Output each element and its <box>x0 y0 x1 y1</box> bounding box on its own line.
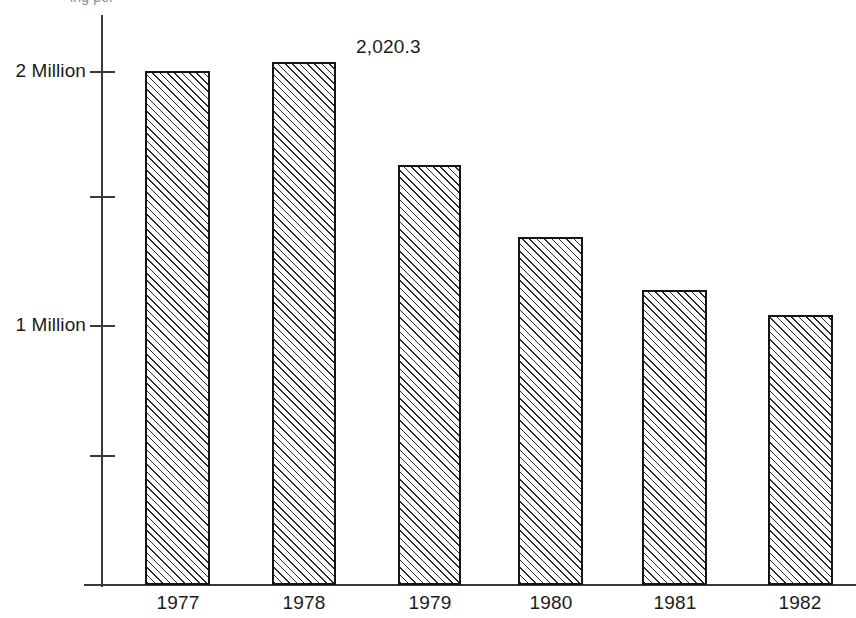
y-axis-label-text: 2 Million <box>15 60 86 82</box>
bar-chart: ing per 2 Million 1 Million 2,020.3 1977… <box>0 0 856 618</box>
y-tick-1000 <box>90 325 115 327</box>
y-tick-500 <box>90 455 115 457</box>
x-axis-label-1978: 1978 <box>259 592 349 614</box>
bar-1980 <box>518 237 583 585</box>
x-axis-label-1981: 1981 <box>630 592 720 614</box>
y-axis-label-1-million: 1 Million <box>0 314 86 336</box>
x-axis-label-1982: 1982 <box>755 592 845 614</box>
y-axis-label-text: 1 Million <box>15 314 86 336</box>
bar-1977 <box>145 71 210 585</box>
x-axis-label-1977: 1977 <box>133 592 223 614</box>
bar-1979 <box>398 165 461 585</box>
bar-1978 <box>272 62 336 585</box>
x-axis-label-1979: 1979 <box>385 592 475 614</box>
y-axis-line <box>101 15 103 587</box>
bar-1982 <box>768 315 833 585</box>
bar-1981 <box>642 290 707 585</box>
clipped-header-text: ing per <box>70 0 114 5</box>
y-axis-label-2-million: 2 Million <box>0 60 86 82</box>
y-tick-1500 <box>90 196 115 198</box>
x-axis-label-1980: 1980 <box>506 592 596 614</box>
y-tick-2000 <box>90 71 115 73</box>
bar-value-label-1978: 2,020.3 <box>356 36 421 58</box>
